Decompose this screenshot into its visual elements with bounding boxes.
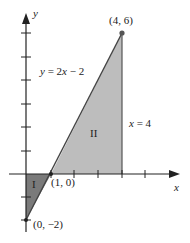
equation-label: y = 2x − 2	[40, 66, 84, 77]
y-axis-label: y	[33, 8, 38, 19]
region-1-label: I	[32, 179, 36, 190]
point-label-4-6: (4, 6)	[109, 15, 133, 26]
point-0-neg2	[24, 218, 28, 222]
x-axis-arrow-icon	[169, 170, 180, 178]
x-axis-label: x	[174, 182, 179, 193]
point-label-1-0: (1, 0)	[51, 177, 75, 188]
equation-eq: = 2	[45, 65, 62, 77]
graph-canvas	[0, 0, 190, 243]
point-4-6	[119, 30, 124, 35]
vline-rest: = 4	[134, 117, 151, 129]
y-axis-arrow-icon	[22, 13, 30, 24]
point-label-0-neg2: (0, −2)	[33, 219, 63, 230]
equation-tail: − 2	[67, 65, 84, 77]
vertical-line-label: x = 4	[129, 118, 151, 129]
region-2-label: II	[90, 128, 97, 139]
